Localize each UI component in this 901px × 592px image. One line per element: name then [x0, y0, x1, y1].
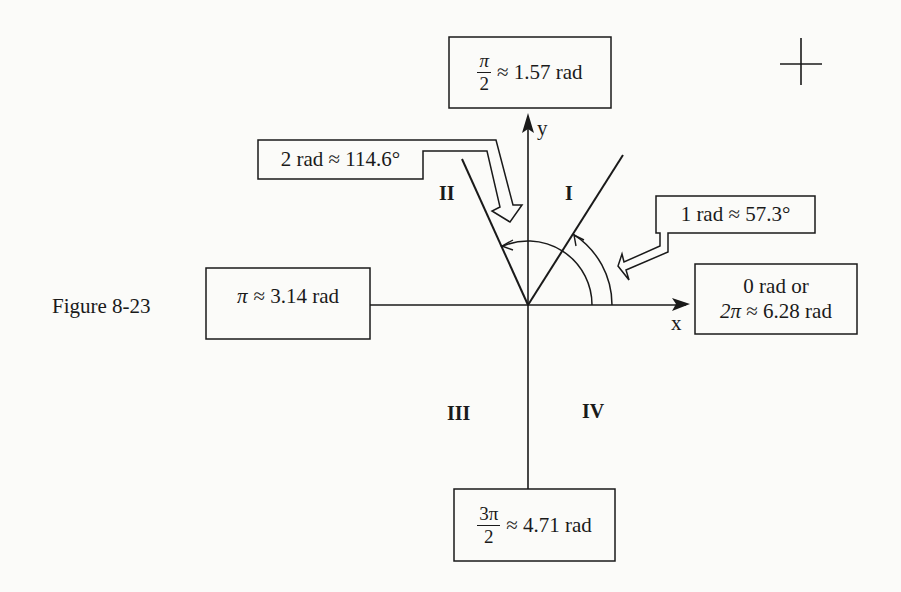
- quadrant-label-iv: IV: [582, 401, 604, 421]
- callout-2-rad-text: 2 rad ≈ 114.6°: [258, 140, 423, 179]
- callout-1-rad-text: 1 rad ≈ 57.3°: [656, 196, 815, 233]
- callout-pi-over-2-text: π 2 ≈ 1.57 rad: [449, 37, 611, 108]
- value-text: ≈ 1.57 rad: [497, 60, 583, 85]
- value-text: ≈ 6.28 rad: [746, 299, 832, 323]
- numerator: 3π: [477, 504, 500, 526]
- arc-1-rad: [573, 234, 612, 305]
- quadrant-label-ii: II: [439, 183, 455, 203]
- one-rad-label: 1 rad ≈ 57.3°: [681, 202, 791, 227]
- x-axis-label: x: [671, 313, 682, 334]
- two-rad-label: 2 rad ≈ 114.6°: [281, 147, 400, 172]
- y-axis-label: y: [537, 118, 548, 139]
- value-line-1: 0 rad or: [743, 274, 808, 299]
- arc-2-rad: [501, 241, 592, 305]
- pi-symbol: π: [237, 284, 248, 309]
- two-pi-symbol: 2π: [720, 299, 741, 323]
- callout-3pi-over-2-text: 3π 2 ≈ 4.71 rad: [454, 489, 615, 561]
- fraction-3pi-over-2: 3π 2: [477, 504, 500, 547]
- quadrant-label-i: I: [565, 183, 573, 203]
- value-text: ≈ 3.14 rad: [253, 284, 339, 309]
- callout-pi-text: π ≈ 3.14 rad: [206, 268, 370, 324]
- callout-zero-or-2pi-text: 0 rad or 2π ≈ 6.28 rad: [695, 264, 857, 334]
- value-line-2: 2π ≈ 6.28 rad: [720, 299, 832, 324]
- quadrant-label-iii: III: [447, 403, 470, 423]
- denominator: 2: [484, 526, 494, 547]
- denominator: 2: [479, 73, 489, 94]
- fraction-pi-over-2: π 2: [477, 51, 491, 94]
- numerator: π: [477, 51, 491, 73]
- value-text: ≈ 4.71 rad: [506, 513, 592, 538]
- figure-caption: Figure 8-23: [52, 296, 151, 317]
